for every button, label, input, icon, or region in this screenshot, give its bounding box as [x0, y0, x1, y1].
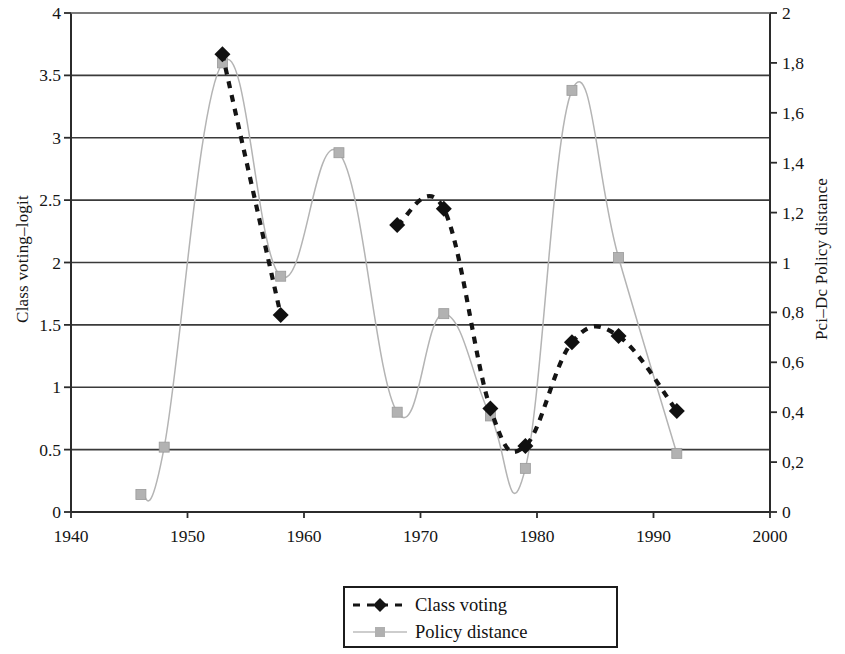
gridlines [71, 13, 770, 512]
x-axis-tick-label: 1980 [520, 526, 555, 547]
y-axis-left-tick-label: 2 [9, 252, 61, 273]
y-axis-left-tick-label: 3.5 [9, 65, 61, 86]
y-axis-right-tick-label: 0 [782, 502, 828, 523]
data-point-class-voting [389, 217, 405, 233]
series-class-voting [214, 46, 684, 454]
x-axis-tick-label: 1940 [54, 526, 89, 547]
y-axis-right-tick-label: 1,6 [782, 102, 828, 123]
y-axis-right-tick-label: 1,8 [782, 52, 828, 73]
data-point-policy-distance [159, 442, 169, 452]
legend-swatch-class-voting [345, 592, 415, 618]
data-point-policy-distance [520, 463, 530, 473]
y-axis-right-tick-label: 2 [782, 3, 828, 24]
y-axis-right-tick-label: 0,6 [782, 352, 828, 373]
y-axis-right-tick-label: 0,8 [782, 302, 828, 323]
data-point-policy-distance [276, 271, 286, 281]
y-axis-left-tick-label: 3 [9, 127, 61, 148]
data-point-policy-distance [334, 148, 344, 158]
y-axis-left-tick-label: 0 [9, 502, 61, 523]
y-axis-right-tick-label: 0,2 [782, 452, 828, 473]
y-axis-right-tick-label: 1 [782, 252, 828, 273]
data-point-policy-distance [567, 85, 577, 95]
legend-swatch-policy-distance [345, 619, 415, 645]
legend-item-class-voting: Class voting [345, 591, 616, 619]
data-point-policy-distance [672, 448, 682, 458]
chart-figure: Class voting–logit Pci–Dc Policy distanc… [0, 0, 845, 654]
y-axis-right-tick-label: 0,4 [782, 402, 828, 423]
x-axis-tick-label: 1970 [403, 526, 438, 547]
x-axis-tick-label: 1950 [170, 526, 205, 547]
y-axis-left-tick-label: 1.5 [9, 314, 61, 335]
x-axis-tick-label: 1960 [287, 526, 322, 547]
x-axis-tick-label: 2000 [753, 526, 788, 547]
plot-area [0, 0, 845, 654]
y-axis-left-tick-label: 1 [9, 377, 61, 398]
y-axis-right-tick-label: 1,4 [782, 152, 828, 173]
y-axis-left-tick-label: 4 [9, 3, 61, 24]
legend-label-policy-distance: Policy distance [415, 623, 528, 642]
data-point-policy-distance [439, 309, 449, 319]
y-axis-left-tick-label: 2.5 [9, 190, 61, 211]
y-axis-left-tick-label: 0.5 [9, 439, 61, 460]
data-point-policy-distance [392, 407, 402, 417]
legend-label-class-voting: Class voting [415, 596, 507, 615]
data-point-class-voting [273, 307, 289, 323]
y-axis-right-tick-label: 1,2 [782, 202, 828, 223]
legend: Class voting Policy distance [343, 586, 618, 648]
axis-ticks [64, 13, 777, 518]
data-point-policy-distance [614, 253, 624, 263]
data-point-policy-distance [136, 490, 146, 500]
series-policy-distance [136, 58, 682, 501]
legend-item-policy-distance: Policy distance [345, 618, 616, 646]
x-axis-tick-label: 1990 [636, 526, 671, 547]
